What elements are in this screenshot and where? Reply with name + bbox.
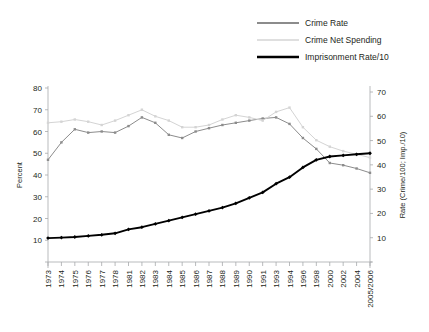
x-axis-tick-label: 1986	[192, 269, 201, 287]
y-axis-left-tick-label: 50	[33, 149, 42, 158]
data-point-marker	[86, 234, 90, 238]
data-point-marker	[168, 134, 170, 136]
x-axis-tick-label: 1987	[205, 269, 214, 287]
x-axis-tick-label: 1973	[44, 269, 53, 287]
x-axis-tick-label: 1991	[259, 269, 268, 287]
data-point-marker	[100, 233, 104, 237]
x-axis-tick-label: 1975	[71, 269, 80, 287]
data-point-marker	[154, 122, 156, 124]
x-axis-tick-label: 1983	[151, 269, 160, 287]
legend-label-crime-net-spending: Crime Net Spending	[305, 35, 382, 45]
data-point-marker	[315, 148, 317, 150]
data-point-marker	[140, 225, 144, 229]
data-point-marker	[180, 216, 184, 220]
y-axis-left-tick-label: 40	[33, 171, 42, 180]
data-point-marker	[47, 122, 49, 124]
chart-container: Crime RateCrime Net SpendingImprisonment…	[0, 0, 429, 332]
y-axis-left-title: Percent	[15, 161, 24, 188]
data-point-marker	[369, 156, 371, 158]
data-point-marker	[154, 115, 156, 117]
data-series-layer	[46, 106, 372, 240]
data-point-marker	[302, 126, 304, 128]
x-axis-tick-label: 1982	[138, 269, 147, 287]
data-point-marker	[153, 222, 157, 226]
data-point-marker	[181, 126, 183, 128]
data-point-marker	[302, 137, 304, 139]
y-axis-right-tick-label: 40	[377, 161, 386, 170]
x-axis-tick-label: 1974	[57, 269, 66, 287]
x-axis-tick-label: 1988	[218, 269, 227, 287]
y-axis-right-tick-label: 70	[377, 88, 386, 97]
data-point-marker	[141, 109, 143, 111]
data-point-marker	[74, 128, 76, 130]
data-point-marker	[328, 155, 332, 159]
data-point-marker	[275, 111, 277, 113]
data-point-marker	[368, 151, 372, 155]
data-point-marker	[288, 106, 290, 108]
data-point-marker	[221, 118, 223, 120]
y-axis-right-tick-label: 20	[377, 209, 386, 218]
data-point-marker	[329, 162, 331, 164]
x-axis-tick-label: 1984	[165, 269, 174, 287]
x-axis-tick-label: 1989	[232, 269, 241, 287]
data-point-marker	[235, 114, 237, 116]
data-point-marker	[342, 164, 344, 166]
y-axis-left-tick-label: 60	[33, 128, 42, 137]
data-point-marker	[127, 125, 129, 127]
x-axis-tick-label: 1977	[98, 269, 107, 287]
y-axis-left: 1020304050607080	[33, 84, 48, 268]
data-point-marker	[181, 137, 183, 139]
data-point-marker	[208, 124, 210, 126]
x-axis: 1973197419751976197719781981198219831984…	[44, 262, 375, 308]
data-point-marker	[47, 159, 49, 161]
x-axis-tick-label: 1998	[312, 269, 321, 287]
data-point-marker	[60, 141, 62, 143]
data-point-marker	[101, 130, 103, 132]
data-point-marker	[341, 154, 345, 158]
x-axis-tick-label: 1981	[125, 269, 134, 287]
x-axis-tick-label: 1978	[111, 269, 120, 287]
data-point-marker	[208, 127, 210, 129]
data-point-marker	[168, 119, 170, 121]
x-axis-tick-label: 1990	[245, 269, 254, 287]
data-point-marker	[101, 124, 103, 126]
chart-legend: Crime RateCrime Net SpendingImprisonment…	[257, 18, 389, 62]
data-point-marker	[194, 212, 198, 216]
x-axis-tick-label: 1996	[299, 269, 308, 287]
data-point-marker	[221, 124, 223, 126]
data-point-marker	[60, 121, 62, 123]
legend-label-imprisonment-rate-10: Imprisonment Rate/10	[305, 52, 389, 62]
y-axis-right-tick-label: 60	[377, 112, 386, 121]
y-axis-right-title: Rate (Crime/100; Imp./10)	[398, 131, 407, 218]
series-line-imprisonment-rate-10	[48, 153, 370, 238]
data-point-marker	[127, 114, 129, 116]
data-point-marker	[235, 122, 237, 124]
data-point-marker	[248, 119, 250, 121]
data-point-marker	[167, 219, 171, 223]
data-point-marker	[342, 150, 344, 152]
y-axis-right: 10203040506070	[370, 86, 386, 268]
data-point-marker	[194, 130, 196, 132]
data-point-marker	[275, 116, 277, 118]
y-axis-left-tick-label: 30	[33, 193, 42, 202]
y-axis-left-tick-label: 80	[33, 84, 42, 93]
data-point-marker	[262, 119, 264, 121]
data-point-marker	[87, 121, 89, 123]
data-point-marker	[355, 152, 359, 156]
data-point-marker	[315, 139, 317, 141]
data-point-marker	[141, 116, 143, 118]
data-point-marker	[87, 131, 89, 133]
x-axis-tick-label: 2002	[339, 269, 348, 287]
x-axis-tick-label: 1985	[178, 269, 187, 287]
data-point-marker	[369, 172, 371, 174]
data-point-marker	[262, 117, 264, 119]
y-axis-left-tick-label: 20	[33, 215, 42, 224]
series-line-crime-net-spending	[48, 108, 370, 158]
y-axis-right-tick-label: 10	[377, 234, 386, 243]
data-point-marker	[114, 131, 116, 133]
y-axis-left-tick-label: 10	[33, 236, 42, 245]
data-point-marker	[329, 146, 331, 148]
data-point-marker	[194, 126, 196, 128]
y-axis-right-tick-label: 50	[377, 137, 386, 146]
y-axis-left-tick-label: 70	[33, 106, 42, 115]
